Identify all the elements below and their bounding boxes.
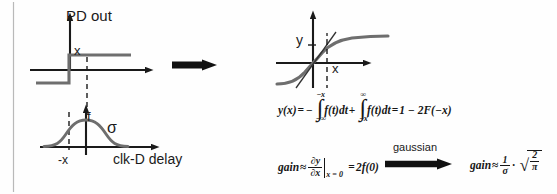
sigmoid-curve <box>277 36 388 84</box>
gain-left-approx: ≈ <box>299 161 307 173</box>
gain-left-result: 2f(0) <box>356 161 379 173</box>
integral-2-lower-limit: −x <box>359 114 368 123</box>
gain-equation-left: gain≈∂y∂xx = 0=2f(0) <box>278 157 379 180</box>
gain-right-approx: ≈ <box>491 159 499 171</box>
integral-minus: − <box>305 104 314 116</box>
pd-out-label: PD out <box>66 8 112 23</box>
integral-1: −x∫−∞ <box>317 105 324 117</box>
integral-equals-2: = <box>391 104 400 116</box>
sigmoid-plot <box>276 18 388 88</box>
integral-1-lower-limit: −∞ <box>315 114 326 123</box>
integral-1-integrand: f(t)dt <box>324 104 348 116</box>
integral-plus: + <box>348 104 357 116</box>
two-over-pi-numerator: 2 <box>530 150 539 161</box>
integral-2: ∞∫−x <box>359 105 366 117</box>
evaluation-bar: x = 0 <box>324 158 325 178</box>
two-over-pi-denominator: π <box>530 161 539 173</box>
step-plot <box>30 20 146 115</box>
integral-result: 1 − 2F(−x) <box>399 104 451 116</box>
partial-derivative-fraction: ∂y∂x <box>308 156 322 179</box>
two-over-pi-fraction: 2π <box>530 150 539 173</box>
gaussian-f-label: f <box>87 110 91 123</box>
partial-numerator: ∂y <box>308 156 322 167</box>
partial-denominator: ∂x <box>308 167 322 179</box>
gain-left-label: gain <box>278 161 299 173</box>
gaussian-plot <box>40 112 152 155</box>
one-over-sigma-numerator: 1 <box>500 155 509 166</box>
one-over-sigma-fraction: 1σ <box>500 155 509 178</box>
sqrt-two-over-pi: √2π <box>520 154 543 178</box>
gain-equation-right: gain≈1σ·√2π <box>470 155 542 179</box>
integral-lhs: y(x) <box>278 104 297 116</box>
gain-left-equals: = <box>347 161 356 173</box>
gaussian-arrow-label: gaussian <box>393 141 437 153</box>
radicand: 2π <box>527 150 542 174</box>
multiplication-dot: · <box>511 159 517 171</box>
gaussian-sigma-label: σ <box>107 120 117 136</box>
integral-equation: y(x)=−−x∫−∞f(t)dt+∞∫−xf(t)dt=1 − 2F(−x) <box>278 104 451 117</box>
step-x-label: x <box>74 44 81 57</box>
clk-d-delay-label: clk-D delay <box>113 152 182 166</box>
sigmoid-y-label: y <box>296 33 303 47</box>
evaluation-point: x = 0 <box>326 170 343 179</box>
integral-2-integrand: f(t)dt <box>367 104 391 116</box>
gaussian-negx-label: -x <box>58 154 68 166</box>
sigmoid-x-label: x <box>332 62 339 75</box>
integral-equals: = <box>297 104 306 116</box>
gain-right-label: gain <box>470 159 491 171</box>
figure-canvas: PD out x f σ -x clk-D delay y x y(x)=−−x… <box>0 0 557 194</box>
one-over-sigma-denominator: σ <box>500 165 509 177</box>
